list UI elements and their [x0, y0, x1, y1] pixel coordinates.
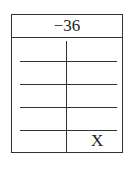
t-chart-header: −36: [12, 15, 122, 38]
row-5-right-mark: X: [91, 132, 103, 150]
answer-line-1: [20, 61, 117, 62]
answer-line-2: [20, 84, 117, 85]
t-chart-box: −36 X: [11, 14, 123, 153]
answer-line-3: [20, 107, 117, 108]
t-chart-divider: [66, 41, 67, 153]
